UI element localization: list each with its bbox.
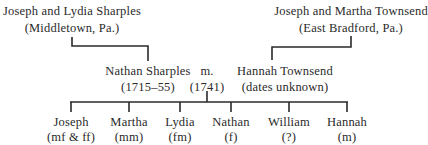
- marriage-label: m.: [200, 64, 213, 78]
- child-note: (fm): [168, 130, 191, 144]
- child-note: (m): [338, 130, 357, 144]
- child-name: Martha: [110, 115, 147, 129]
- wife-name: Hannah Townsend: [237, 64, 333, 78]
- child-note: (mm): [115, 130, 144, 144]
- wife-dates: (dates unknown): [242, 80, 329, 94]
- child-note: (?): [282, 130, 296, 144]
- right-parents-place: (East Bradford, Pa.): [299, 21, 403, 35]
- right-parents-name: Joseph and Martha Townsend: [274, 4, 428, 18]
- husband-name: Nathan Sharples: [105, 64, 190, 78]
- connector-right-parents-to-wife: [272, 36, 351, 60]
- child-name: Hannah: [327, 115, 367, 129]
- child-name: Lydia: [165, 115, 194, 129]
- child-name: William: [268, 115, 310, 129]
- child-note: (f): [224, 130, 237, 144]
- child-name: Nathan: [212, 115, 249, 129]
- left-parents-name: Joseph and Lydia Sharples: [3, 4, 141, 18]
- husband-dates: (1715–55): [121, 80, 175, 94]
- child-note: (mf & ff): [47, 130, 95, 144]
- connector-left-parents-to-husband: [72, 37, 148, 61]
- left-parents-place: (Middletown, Pa.): [25, 21, 120, 35]
- marriage-year: (1741): [190, 80, 225, 94]
- child-name: Joseph: [53, 115, 88, 129]
